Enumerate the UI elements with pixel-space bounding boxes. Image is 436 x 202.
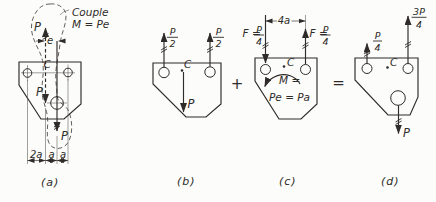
couple-label-line2: M = Pe xyxy=(72,18,109,30)
panel-b-drawing: P 2 P 2 C P (b) xyxy=(153,26,224,188)
centroid-dot-d xyxy=(386,66,389,69)
svg-text:4: 4 xyxy=(374,42,380,53)
force-label-centroid-a: P xyxy=(36,85,43,99)
caption-a: (a) xyxy=(41,176,59,189)
plus-operator: + xyxy=(231,75,244,93)
hole-left-b xyxy=(159,67,169,77)
fraction-p-over-4-left-c: P 4 xyxy=(254,24,264,47)
svg-text:2: 2 xyxy=(215,38,221,49)
dim-a2-label: a xyxy=(60,149,66,160)
bracket-plate-c xyxy=(255,58,317,119)
mechanics-figure: Couple M = Pe P e C P P 2a a a (a) P 2 P… xyxy=(0,0,436,202)
svg-text:P: P xyxy=(375,30,381,41)
centroid-label-b: C xyxy=(184,58,192,70)
dim-a1-label: a xyxy=(49,149,55,160)
hole-right-b xyxy=(205,67,215,77)
fraction-p-over-2-left: P 2 xyxy=(167,26,178,49)
centroid-label-a: C xyxy=(44,58,52,70)
centroid-label-c: C xyxy=(287,56,295,68)
hole-lower-d xyxy=(391,91,406,106)
moment-value: Pe = Pa xyxy=(269,91,310,103)
fraction-p-over-4-right-c: P 4 xyxy=(321,24,331,47)
fraction-p-over-4-d: P 4 xyxy=(373,30,382,53)
dim-e-label: e xyxy=(47,35,53,46)
panel-c-drawing: 4a F = P 4 F = P 4 C M = Pe = Pa (c) xyxy=(243,15,331,188)
hole-right-c xyxy=(301,65,311,75)
dim-2a-label: 2a xyxy=(30,149,43,160)
hole-left-d xyxy=(362,64,372,74)
force-label-down-d: P xyxy=(403,126,410,140)
couple-label-line1: Couple xyxy=(72,6,108,18)
svg-text:P: P xyxy=(216,26,222,37)
force-label-hole-a: P xyxy=(61,129,68,143)
equals-operator: = xyxy=(332,74,345,92)
svg-text:4: 4 xyxy=(322,36,328,47)
svg-text:P: P xyxy=(256,24,262,35)
svg-text:4: 4 xyxy=(256,36,262,47)
centroid-label-d: C xyxy=(390,56,398,68)
diagram-linework: Couple M = Pe P e C P P 2a a a (a) P 2 P… xyxy=(0,0,436,202)
caption-d: (d) xyxy=(381,175,400,188)
panel-a-drawing: Couple M = Pe P e C P P 2a a a (a) xyxy=(19,4,109,189)
svg-text:3P: 3P xyxy=(413,6,425,17)
caption-b: (b) xyxy=(177,175,196,188)
svg-text:4: 4 xyxy=(416,19,422,30)
panel-d-drawing: P 4 3P 4 C P (d) xyxy=(355,6,427,188)
dim-4a-label: 4a xyxy=(278,15,291,26)
svg-text:2: 2 xyxy=(169,38,175,49)
hole-right-d xyxy=(403,64,413,74)
centroid-dot-c xyxy=(283,65,286,68)
force-label-top-a: P xyxy=(34,20,41,34)
caption-c: (c) xyxy=(279,175,297,188)
svg-text:P: P xyxy=(170,26,176,37)
svg-text:P: P xyxy=(323,24,329,35)
fraction-3p-over-4-d: 3P 4 xyxy=(412,6,427,30)
hole-left-c xyxy=(261,65,271,75)
force-label-down-b: P xyxy=(188,97,195,111)
moment-label: M = xyxy=(279,74,300,86)
fraction-p-over-2-right: P 2 xyxy=(213,26,224,49)
bracket-plate-d xyxy=(355,58,418,115)
centroid-dot-b xyxy=(181,69,184,72)
